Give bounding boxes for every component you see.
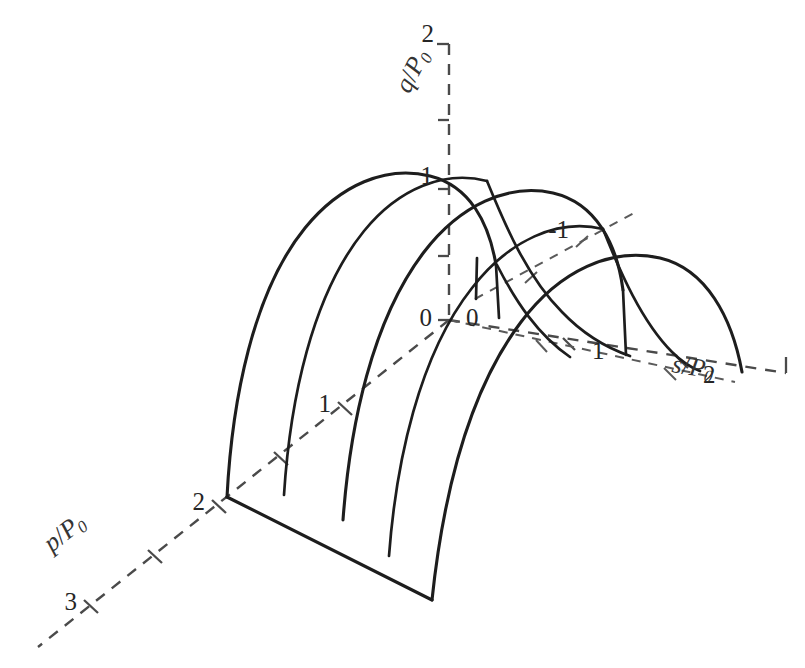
arch-leg-middle — [623, 290, 626, 355]
generator-curve-1 — [284, 178, 487, 495]
p-tick-label-1: 1 — [319, 390, 332, 417]
s-tick-label-1: 1 — [592, 337, 605, 364]
arch-curve-3 — [432, 255, 742, 600]
p-axis-tick-1 — [338, 402, 352, 415]
q-axis-label: q/P0 — [389, 44, 437, 98]
arch-leg-rear — [496, 265, 499, 318]
arch-curve-2 — [343, 191, 623, 520]
figure-root: 2 1 0 0 1 2 1 2 3 -1 q/P0 p/P0 s/P0 — [0, 0, 805, 668]
s-lower-guide-tick-1 — [536, 340, 547, 352]
p-tick-label-2: 2 — [193, 488, 206, 515]
p-axis-tick-3 — [84, 600, 98, 613]
p-axis-label: p/P0 — [36, 507, 92, 560]
p-axis-tick-2 — [212, 500, 226, 513]
arch-curve-1 — [227, 173, 496, 497]
diagonal-guide-tick-neg1 — [576, 236, 588, 247]
s-tick-label-0: 0 — [466, 304, 479, 331]
p-tick-label-3: 3 — [65, 588, 78, 615]
q-tick-label-2: 2 — [422, 20, 435, 47]
surface-plot-svg: 2 1 0 0 1 2 1 2 3 -1 q/P0 p/P0 s/P0 — [0, 0, 805, 668]
base-edge — [227, 497, 432, 600]
s-axis-label: s/P0 — [670, 349, 717, 386]
q-tick-label-1: 1 — [421, 162, 434, 189]
diagonal-tick-label-neg1: -1 — [548, 216, 569, 243]
q-tick-label-0: 0 — [420, 304, 433, 331]
origin-connector — [476, 258, 477, 299]
